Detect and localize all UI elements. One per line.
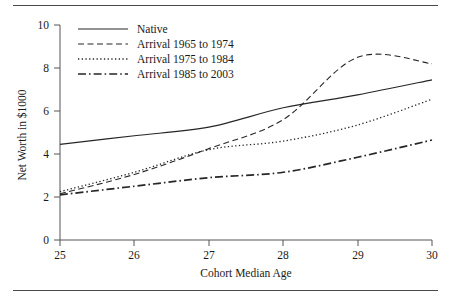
x-axis: 25 26 27 28 29 30 Cohort Median Age bbox=[54, 240, 438, 280]
series-line-solid bbox=[60, 80, 432, 145]
y-tick-label-10: 10 bbox=[38, 19, 50, 31]
series-line-dashdot bbox=[60, 140, 432, 195]
x-tick-label-26: 26 bbox=[128, 249, 140, 261]
y-axis: 10 8 6 4 2 0 Net Worth in $1000 bbox=[16, 19, 60, 246]
chart-legend: Native Arrival 1965 to 1974 Arrival 1975… bbox=[78, 23, 234, 80]
series-line-dashed bbox=[60, 54, 432, 194]
legend-item-native: Native bbox=[78, 23, 168, 35]
line-chart: 10 8 6 4 2 0 Net Worth in $1000 25 26 27… bbox=[0, 0, 451, 299]
x-tick-label-25: 25 bbox=[54, 249, 66, 261]
legend-label-0: Native bbox=[137, 23, 168, 35]
figure-container: 10 8 6 4 2 0 Net Worth in $1000 25 26 27… bbox=[0, 0, 451, 299]
y-tick-label-2: 2 bbox=[43, 191, 49, 203]
x-tick-label-28: 28 bbox=[277, 249, 289, 261]
legend-label-1: Arrival 1965 to 1974 bbox=[137, 38, 234, 50]
legend-item-arrival-1985-2003: Arrival 1985 to 2003 bbox=[78, 68, 234, 80]
series-line-dotted bbox=[60, 99, 432, 191]
y-tick-label-6: 6 bbox=[43, 105, 49, 117]
legend-label-2: Arrival 1975 to 1984 bbox=[137, 53, 234, 65]
x-tick-label-27: 27 bbox=[203, 249, 215, 261]
legend-item-arrival-1965-1974: Arrival 1965 to 1974 bbox=[78, 38, 234, 50]
y-tick-label-4: 4 bbox=[43, 148, 49, 160]
y-tick-label-8: 8 bbox=[43, 62, 49, 74]
y-axis-title: Net Worth in $1000 bbox=[16, 89, 28, 180]
legend-label-3: Arrival 1985 to 2003 bbox=[137, 68, 234, 80]
y-tick-label-0: 0 bbox=[43, 234, 49, 246]
x-axis-title: Cohort Median Age bbox=[200, 267, 291, 280]
data-series-group bbox=[60, 54, 432, 195]
legend-item-arrival-1975-1984: Arrival 1975 to 1984 bbox=[78, 53, 234, 65]
x-tick-label-29: 29 bbox=[352, 249, 364, 261]
x-tick-label-30: 30 bbox=[426, 249, 438, 261]
